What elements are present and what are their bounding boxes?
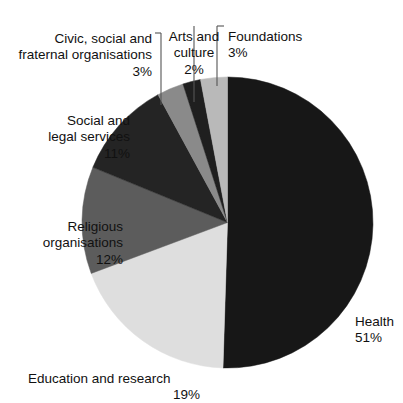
slice-label-health-name: Health <box>355 314 394 329</box>
slice-label-health-pct: 51% <box>355 330 403 347</box>
slice-label-foundations-name: Foundations <box>228 29 302 44</box>
slice-label-education-name: Education and research <box>28 371 171 386</box>
slice-label-social-legal-pct: 11% <box>6 146 130 163</box>
slice-label-education: Education and research 19% <box>28 354 258 403</box>
slice-label-civic-name: Civic, social and fraternal organisation… <box>18 31 152 63</box>
slice-label-religious-pct: 12% <box>6 252 123 269</box>
slice-label-arts-pct: 2% <box>163 62 225 79</box>
slice-label-religious: Religious organisations 12% <box>6 202 123 285</box>
slice-label-civic: Civic, social and fraternal organisation… <box>0 14 152 97</box>
slice-label-religious-name: Religious organisations <box>43 219 123 251</box>
slice-label-arts: Arts and culture 2% <box>163 12 225 95</box>
slice-label-civic-pct: 3% <box>0 64 152 81</box>
slice-label-social-legal-name: Social and legal services <box>48 113 130 145</box>
slice-label-health: Health 51% <box>355 297 403 363</box>
slice-label-foundations: Foundations 3% <box>228 12 338 78</box>
slice-label-arts-name: Arts and culture <box>169 29 219 61</box>
slice-label-foundations-pct: 3% <box>228 45 338 62</box>
pie-slice <box>223 77 373 368</box>
slice-label-social-legal: Social and legal services 11% <box>6 96 130 179</box>
slice-label-education-pct: 19% <box>28 387 200 403</box>
